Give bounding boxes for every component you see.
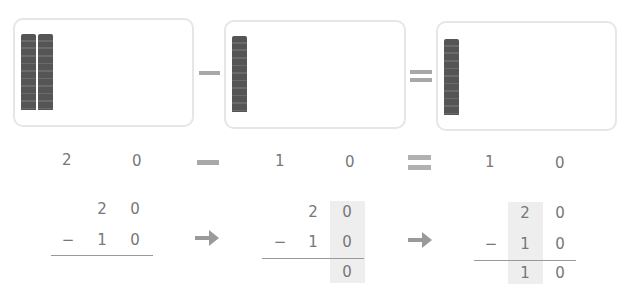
bottom-ones: 0	[550, 235, 570, 253]
subtrahend-box	[224, 20, 406, 129]
answer-ones: 0	[337, 263, 357, 281]
minus-operator-icon	[199, 71, 220, 75]
top-ones: 0	[125, 200, 145, 218]
subtrahend-ones: 0	[345, 153, 355, 171]
answer-tens: 1	[515, 264, 535, 282]
bottom-tens: 1	[515, 235, 535, 253]
top-ones: 0	[337, 203, 357, 221]
result-tens: 1	[485, 153, 495, 171]
tens-rod	[444, 39, 459, 115]
tens-rod	[38, 34, 53, 110]
bottom-ones: 0	[337, 233, 357, 251]
equals-operator-icon	[408, 155, 431, 170]
minus-operator-icon	[197, 160, 219, 165]
subtrahend-tens: 1	[275, 152, 285, 170]
equals-operator-icon	[410, 70, 432, 82]
minuend-ones: 0	[132, 152, 142, 170]
sum-line	[51, 255, 153, 256]
top-ones: 0	[550, 204, 570, 222]
answer-ones: 0	[550, 264, 570, 282]
bottom-ones: 0	[125, 231, 145, 249]
difference-box	[436, 21, 617, 131]
top-tens: 2	[515, 204, 535, 222]
arrow-right-icon	[193, 228, 221, 248]
minuend-box	[13, 18, 194, 127]
minus-sign: −	[58, 231, 78, 249]
minus-sign: −	[270, 233, 290, 251]
tens-rod	[21, 34, 36, 110]
top-tens: 2	[303, 203, 323, 221]
arrow-right-icon	[406, 230, 434, 250]
bottom-tens: 1	[92, 231, 112, 249]
top-tens: 2	[92, 200, 112, 218]
tens-rod	[232, 36, 247, 112]
sum-line	[262, 258, 364, 259]
sum-line	[474, 260, 576, 261]
result-ones: 0	[555, 154, 565, 172]
minuend-tens: 2	[62, 151, 72, 169]
bottom-tens: 1	[303, 233, 323, 251]
minus-sign: −	[481, 235, 501, 253]
